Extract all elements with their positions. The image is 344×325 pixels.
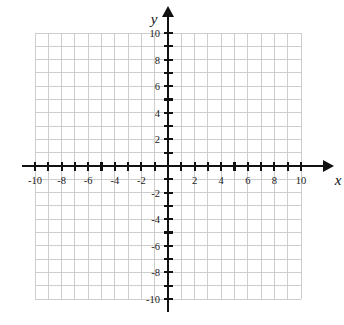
x-tick-label-10: 10: [296, 175, 307, 186]
x-tick-label--6: -6: [84, 175, 93, 186]
x-axis-arrow-icon: [323, 160, 334, 172]
x-tick-label--10: -10: [28, 175, 42, 186]
x-tick-label--2: -2: [137, 175, 146, 186]
x-tick-label-2: 2: [192, 175, 197, 186]
x-tick-label-4: 4: [219, 175, 225, 186]
axes: [22, 6, 334, 312]
x-axis-label: x: [334, 172, 342, 188]
coordinate-plane-svg: -10 -8 -6 -4 -2 2 4 6 8 10 10 8 6 4 2 -2…: [0, 0, 344, 325]
y-tick-label-10: 10: [150, 28, 161, 39]
y-tick-label-4: 4: [155, 108, 161, 119]
y-tick-label--8: -8: [151, 267, 160, 278]
y-tick-label--6: -6: [151, 241, 160, 252]
coordinate-grid-figure: -10 -8 -6 -4 -2 2 4 6 8 10 10 8 6 4 2 -2…: [0, 0, 344, 325]
y-axis-arrow-icon: [162, 6, 174, 17]
x-tick-label-8: 8: [272, 175, 277, 186]
y-axis-label: y: [149, 11, 158, 27]
y-tick-label-8: 8: [155, 55, 160, 66]
y-tick-label-6: 6: [155, 81, 160, 92]
y-tick-label-2: 2: [155, 134, 160, 145]
y-tick-label--2: -2: [151, 188, 160, 199]
y-tick-label--10: -10: [146, 294, 160, 305]
y-tick-label--4: -4: [151, 214, 160, 225]
x-tick-label-6: 6: [245, 175, 250, 186]
x-tick-label--8: -8: [57, 175, 66, 186]
x-tick-label--4: -4: [110, 175, 119, 186]
